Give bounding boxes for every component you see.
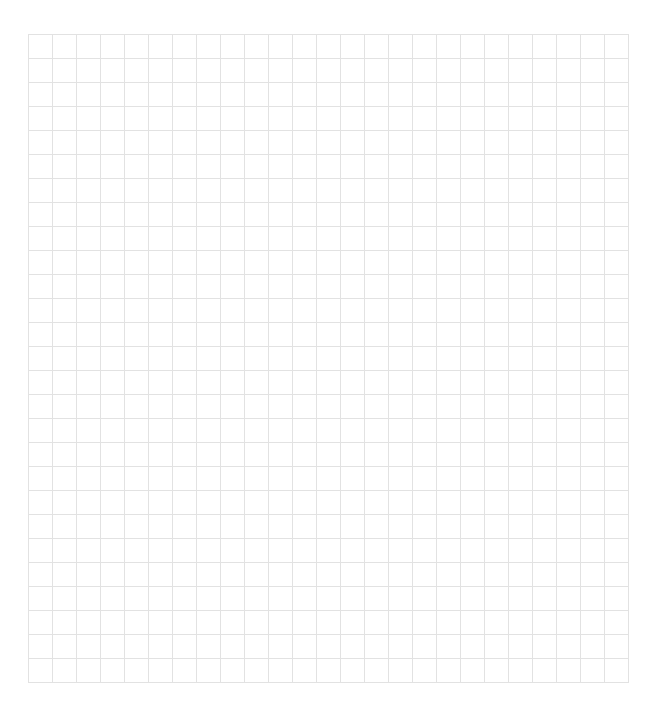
grid-lines <box>28 34 628 682</box>
grid-paper <box>28 34 629 683</box>
